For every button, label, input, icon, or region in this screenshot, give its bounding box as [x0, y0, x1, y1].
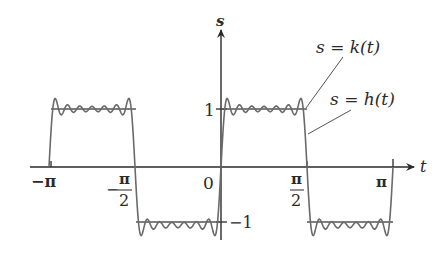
tick-label-neg-pi-half-den: 2	[119, 191, 129, 210]
h-curve-label: s = h(t)	[330, 89, 395, 109]
axis-ticks	[51, 109, 393, 222]
tick-label-one: 1	[204, 100, 215, 120]
t-axis-label: t	[420, 157, 427, 176]
tick-label-pi-half-den: 2	[291, 191, 301, 210]
tick-label-neg-one: −1	[229, 213, 253, 232]
tick-label-zero: 0	[203, 173, 214, 193]
tick-label-neg-pi-half-num: π	[119, 170, 130, 188]
tick-label-pi: π	[376, 173, 387, 191]
h-leader-line	[308, 110, 351, 134]
tick-label-neg-pi-half-sign: −	[106, 180, 119, 199]
k-curve-label: s = k(t)	[316, 37, 380, 57]
tick-label-neg-pi: −π	[31, 172, 56, 191]
fourier-square-wave-plot: s t −π − π 2 0 π 2 π 1 −1 s = k(t) s = h…	[0, 0, 446, 253]
square-wave-k	[51, 109, 393, 222]
tick-label-pi-half-num: π	[291, 170, 302, 188]
s-axis-label: s	[216, 12, 225, 30]
